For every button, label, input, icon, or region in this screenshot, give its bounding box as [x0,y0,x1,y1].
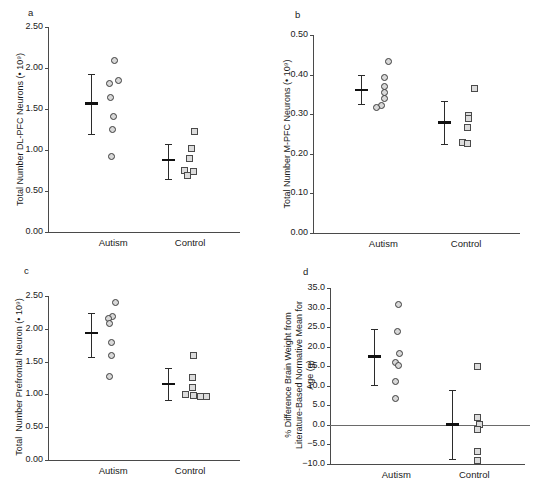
zero-reference-line [330,425,530,426]
y-tick-d-3 [327,405,330,406]
y-tick-d-6 [327,347,330,348]
mean-marker-d-autism [368,355,381,358]
data-point [474,448,481,455]
y-tick-label-d-5: 15.0 [290,361,325,370]
mean-marker-d-control [446,423,459,426]
errorbar-cap-d-control-high [449,390,456,391]
errorbar-cap-d-control-low [449,459,456,460]
x-category-label-d-control: Control [434,470,514,480]
y-tick-d-7 [327,327,330,328]
data-point [474,457,481,464]
y-tick-d-4 [327,386,330,387]
data-point [395,362,402,369]
errorbar-cap-d-autism-high [371,329,378,330]
data-point [395,301,402,308]
y-tick-d-1 [327,444,330,445]
panel-d: d% Difference Brain Weight from Literatu… [0,0,535,496]
data-point [396,350,403,357]
data-point [474,363,481,370]
data-point [474,426,481,433]
y-tick-d-2 [327,425,330,426]
data-point [392,378,399,385]
y-tick-d-8 [327,308,330,309]
x-axis-line-d [330,464,525,465]
data-point [392,395,399,402]
y-axis-line-d [330,288,331,464]
errorbar-cap-d-autism-low [371,385,378,386]
y-tick-label-d-7: 25.0 [290,322,325,331]
data-point [394,328,401,335]
y-tick-label-d-8: 30.0 [290,303,325,312]
y-tick-label-d-1: −5.0 [290,439,325,448]
y-tick-label-d-0: −10.0 [290,459,325,468]
figure-root: aTotal Number DL-PFC Neurons (• 10⁹)0.00… [0,0,535,496]
panel-letter-d: d [303,267,308,277]
y-tick-d-5 [327,366,330,367]
y-axis-title-d: % Difference Brain Weight from Literatur… [283,286,316,464]
data-point [474,414,481,421]
x-category-label-d-autism: Autism [356,470,436,480]
y-tick-d-0 [327,464,330,465]
y-tick-label-d-4: 10.0 [290,381,325,390]
y-tick-label-d-6: 20.0 [290,342,325,351]
y-tick-label-d-2: 0.0 [290,420,325,429]
y-tick-label-d-3: 5.0 [290,400,325,409]
y-tick-label-d-9: 35.0 [290,283,325,292]
y-tick-d-9 [327,288,330,289]
